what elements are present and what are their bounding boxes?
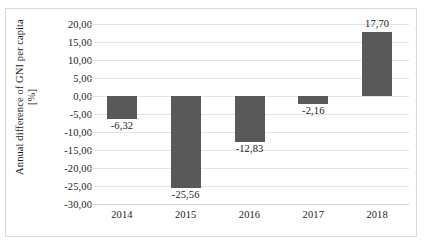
- gridline: [90, 186, 409, 187]
- bar-value-label: -25,56: [151, 189, 221, 200]
- gridline: [90, 168, 409, 169]
- y-tick-label: -15,00: [64, 145, 92, 156]
- y-tick-label: 10,00: [68, 55, 92, 66]
- bar-value-label: -6,32: [87, 120, 157, 131]
- x-tick-label: 2014: [90, 209, 154, 220]
- y-axis-title-line2: [%]: [26, 0, 38, 197]
- y-tick-label: 20,00: [68, 19, 92, 30]
- x-axis-line: [90, 204, 409, 205]
- bar: [298, 96, 328, 104]
- bar: [171, 96, 201, 188]
- bar-value-label: -12,83: [215, 143, 285, 154]
- x-tick-label: 2017: [281, 209, 345, 220]
- bar: [235, 96, 265, 142]
- y-tick-label: -30,00: [64, 199, 92, 210]
- y-tick-label: -25,00: [64, 181, 92, 192]
- y-axis-title: Annual difference of GNI per capita [%]: [14, 0, 38, 197]
- y-axis-title-line1: Annual difference of GNI per capita: [14, 19, 25, 175]
- plot-area: -6,32-25,56-12,83-2,1617,70: [90, 24, 409, 204]
- bar-value-label: 17,70: [342, 18, 412, 29]
- bar: [362, 32, 392, 96]
- x-tick-label: 2015: [154, 209, 218, 220]
- y-tick-label: -20,00: [64, 163, 92, 174]
- x-axis-tick-labels: 20142015201620172018: [90, 209, 409, 229]
- y-tick-label: -5,00: [70, 109, 92, 120]
- bar: [107, 96, 137, 119]
- chart-frame: Annual difference of GNI per capita [%] …: [5, 8, 417, 237]
- x-tick-label: 2016: [218, 209, 282, 220]
- y-tick-label: 15,00: [68, 37, 92, 48]
- x-tick-label: 2018: [345, 209, 409, 220]
- bar-value-label: -2,16: [278, 105, 348, 116]
